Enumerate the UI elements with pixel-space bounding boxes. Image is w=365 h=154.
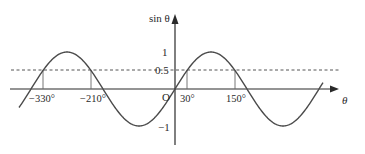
- x-marker-150: 150°: [226, 93, 246, 104]
- y-axis-arrow-icon: [172, 14, 179, 24]
- x-axis-label: θ: [342, 94, 348, 106]
- y-tick-half: 0.5: [155, 64, 169, 76]
- y-tick-1: 1: [162, 46, 168, 58]
- y-axis-label: sin θ: [149, 12, 170, 24]
- x-marker-neg330: −330°: [29, 93, 55, 104]
- x-marker-neg210: −210°: [80, 93, 106, 104]
- x-axis-arrow-icon: [330, 86, 339, 93]
- x-marker-30: 30°: [180, 93, 195, 104]
- marker-lines: [43, 71, 235, 90]
- origin-label: O: [162, 91, 170, 103]
- sine-graph: sin θ θ O 1 0.5 −1 −330° −210° 30° 150°: [0, 0, 365, 154]
- y-tick-neg1: −1: [158, 121, 170, 133]
